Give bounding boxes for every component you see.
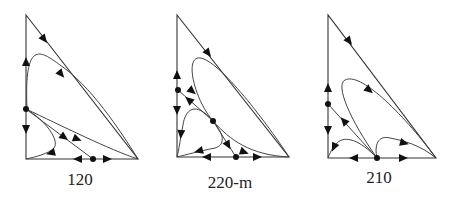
trajectory bbox=[192, 58, 289, 157]
arrow-icon bbox=[324, 126, 332, 135]
panel-label: 210 bbox=[366, 168, 392, 188]
simplex-triangle bbox=[328, 15, 436, 158]
trajectory bbox=[376, 137, 436, 158]
panel-210 bbox=[324, 15, 436, 162]
trajectory bbox=[328, 104, 377, 158]
arrow-icon bbox=[177, 130, 186, 140]
arrow-icon bbox=[22, 125, 30, 134]
arrow-icon bbox=[173, 106, 181, 115]
arrow-icon bbox=[223, 140, 234, 152]
arrow-icon bbox=[55, 68, 67, 80]
arrow-icon bbox=[253, 153, 262, 161]
arrow-icon bbox=[202, 153, 211, 161]
panel-label: 120 bbox=[67, 170, 93, 190]
equilibrium-point bbox=[175, 87, 181, 93]
arrow-icon bbox=[399, 154, 408, 162]
trajectory bbox=[26, 109, 93, 159]
equilibrium-point bbox=[210, 118, 216, 124]
trajectory bbox=[178, 90, 213, 121]
equilibrium-point bbox=[90, 156, 96, 162]
arrow-icon bbox=[173, 70, 181, 79]
arrow-icon bbox=[324, 83, 332, 92]
simplex-triangle bbox=[177, 15, 289, 157]
equilibrium-point bbox=[23, 106, 29, 112]
arrow-icon bbox=[73, 155, 82, 163]
equilibrium-point bbox=[374, 155, 380, 161]
equilibrium-point bbox=[233, 154, 239, 160]
panel-220-m bbox=[173, 15, 289, 161]
arrow-icon bbox=[103, 155, 112, 163]
trajectory bbox=[342, 79, 436, 158]
panel-label: 220-m bbox=[208, 173, 252, 193]
panel-120 bbox=[22, 15, 138, 163]
arrow-icon bbox=[22, 57, 30, 66]
equilibrium-point bbox=[325, 101, 331, 107]
arrow-icon bbox=[193, 146, 204, 156]
trajectory bbox=[27, 54, 138, 159]
arrow-icon bbox=[328, 142, 339, 154]
arrow-icon bbox=[349, 154, 358, 162]
trajectory bbox=[328, 139, 377, 158]
